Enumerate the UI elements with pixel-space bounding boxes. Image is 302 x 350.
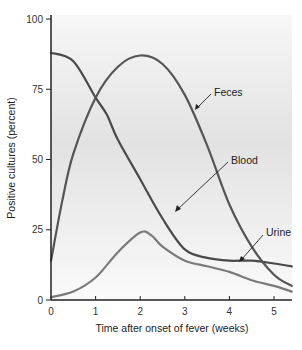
x-tick-label: 1 [93, 306, 99, 317]
x-tick-label: 5 [271, 306, 277, 317]
y-tick-label: 25 [32, 224, 44, 235]
x-tick-label: 2 [137, 306, 143, 317]
y-tick-label: 0 [37, 295, 43, 306]
x-tick-label: 3 [182, 306, 188, 317]
y-axis-title: Positive cultures (percent) [5, 97, 17, 218]
x-tick-label: 4 [227, 306, 233, 317]
y-tick-label: 75 [32, 84, 44, 95]
label-feces: Feces [214, 86, 243, 98]
y-ticks: 0255075100 [26, 14, 51, 306]
label-blood: Blood [231, 154, 258, 166]
chart-svg: 0255075100 012345 Positive cultures (per… [0, 0, 302, 350]
label-urine: Urine [266, 226, 291, 238]
y-tick-label: 50 [32, 154, 44, 165]
x-axis-title: Time after onset of fever (weeks) [95, 322, 248, 334]
x-tick-label: 0 [48, 306, 54, 317]
chart: 0255075100 012345 Positive cultures (per… [0, 0, 302, 350]
y-tick-label: 100 [26, 14, 43, 25]
